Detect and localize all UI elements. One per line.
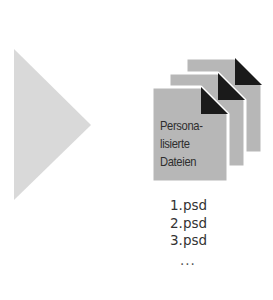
file-name: 1.psd bbox=[170, 197, 207, 215]
document-label-line: Persona- bbox=[160, 117, 203, 135]
ellipsis: ... bbox=[170, 252, 207, 270]
document-label: Persona- lisierte Dateien bbox=[160, 117, 203, 171]
file-name: 3.psd bbox=[170, 232, 207, 250]
document-label-line: lisierte bbox=[160, 135, 203, 153]
file-name: 2.psd bbox=[170, 215, 207, 233]
arrow-triangle-icon bbox=[14, 49, 91, 200]
file-list: 1.psd 2.psd 3.psd ... bbox=[170, 197, 207, 269]
diagram-canvas bbox=[0, 0, 273, 300]
document-label-line: Dateien bbox=[160, 153, 203, 171]
